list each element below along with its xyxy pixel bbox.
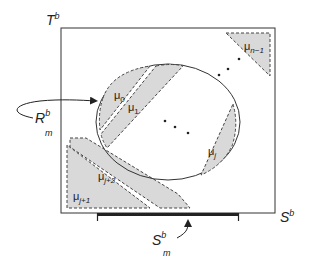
axis-label-s: Sb	[280, 208, 294, 225]
dot	[238, 58, 241, 61]
label-s-m-b: Sb	[152, 230, 166, 248]
region-mu-j	[201, 104, 236, 175]
axis-label-t: Tb	[46, 11, 60, 28]
label-r-m-b-sub: m	[45, 128, 53, 138]
diagram-canvas: μ0 μ1 μj μj+1 μj+2 μn−1 Tb Sb Rb m Sb m	[0, 0, 313, 258]
label-s-m-b-sub: m	[163, 248, 171, 258]
dot	[218, 74, 221, 77]
dot	[174, 126, 177, 129]
region-arrow	[17, 100, 96, 118]
dot	[187, 132, 190, 135]
dot	[164, 120, 167, 123]
label-r-m-b: Rb	[35, 108, 50, 126]
interval-arrow	[177, 221, 188, 238]
dot	[227, 68, 230, 71]
